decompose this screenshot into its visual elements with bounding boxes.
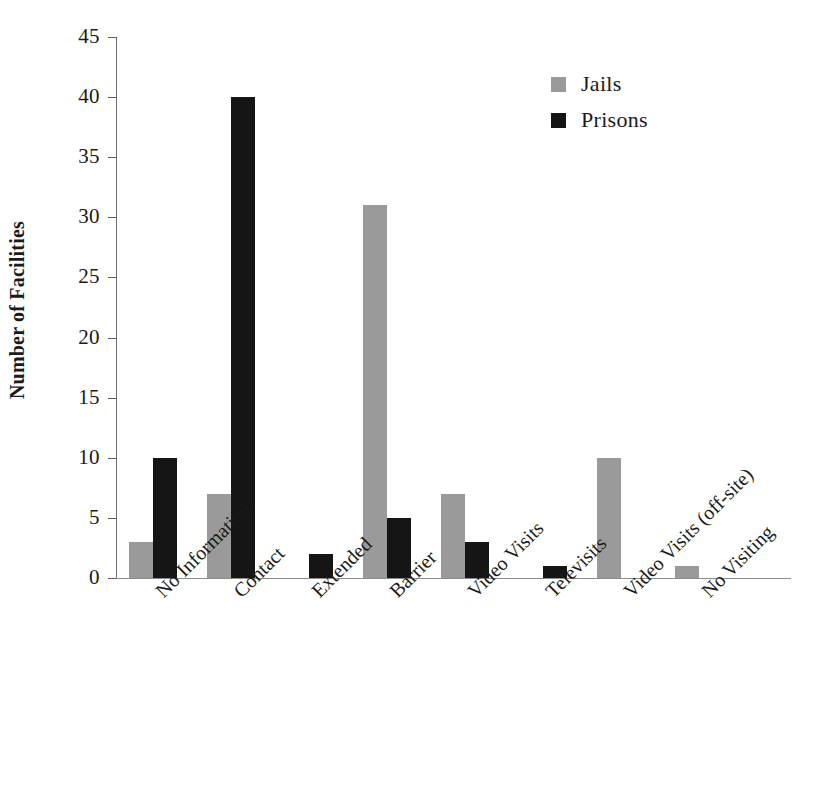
legend-swatch-icon bbox=[551, 77, 566, 92]
bar-prisons-no-information bbox=[153, 458, 177, 578]
bar-jails-no-visiting bbox=[675, 566, 699, 578]
bar-jails-barrier bbox=[363, 205, 387, 578]
legend-item-label: Jails bbox=[581, 73, 622, 95]
bar-chart: Number of Facilities 454035302520151050 … bbox=[0, 0, 821, 787]
bar-jails-no-information bbox=[129, 542, 153, 578]
legend-swatch-icon bbox=[551, 113, 566, 128]
bar-jails-video-visits-off-site bbox=[597, 458, 621, 578]
legend-item-jails: Jails bbox=[551, 66, 751, 102]
bar-jails-video-visits bbox=[441, 494, 465, 578]
legend-item-prisons: Prisons bbox=[551, 102, 751, 138]
legend-item-label: Prisons bbox=[581, 109, 648, 131]
chart-legend: JailsPrisons bbox=[551, 66, 751, 138]
